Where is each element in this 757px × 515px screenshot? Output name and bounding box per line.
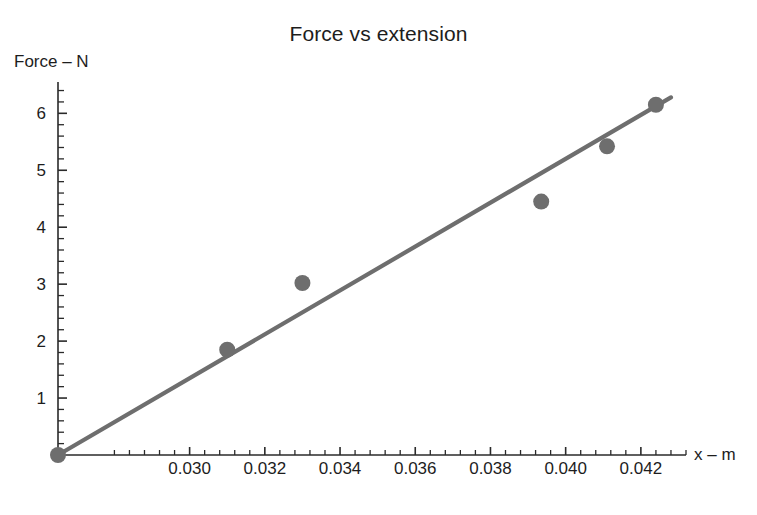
y-tick-label: 4 xyxy=(37,218,46,237)
y-tick-label: 6 xyxy=(37,104,46,123)
data-point xyxy=(648,97,664,113)
y-tick-label: 2 xyxy=(37,332,46,351)
x-tick-group xyxy=(114,447,686,455)
x-tick-label-group: 0.0300.0320.0340.0360.0380.0400.042 xyxy=(168,459,662,478)
data-point xyxy=(219,342,235,358)
x-tick-label: 0.038 xyxy=(469,459,512,478)
x-tick-label: 0.032 xyxy=(244,459,287,478)
data-point xyxy=(50,447,66,463)
y-tick-label-group: 123456 xyxy=(37,104,46,408)
y-tick-group xyxy=(58,91,67,455)
data-point xyxy=(533,194,549,210)
y-tick-label: 3 xyxy=(37,275,46,294)
best-fit-line xyxy=(58,97,671,455)
y-tick-label: 1 xyxy=(37,389,46,408)
data-point xyxy=(599,138,615,154)
x-tick-label: 0.042 xyxy=(620,459,663,478)
chart-canvas: Force vs extension Force – N x – m 0.030… xyxy=(0,0,757,515)
data-point xyxy=(294,275,310,291)
x-tick-label: 0.036 xyxy=(394,459,437,478)
x-tick-label: 0.040 xyxy=(544,459,587,478)
x-tick-label: 0.030 xyxy=(168,459,211,478)
y-tick-label: 5 xyxy=(37,161,46,180)
plot-area: 0.0300.0320.0340.0360.0380.0400.042 1234… xyxy=(0,0,757,515)
best-fit-line-group xyxy=(58,97,671,455)
x-tick-label: 0.034 xyxy=(319,459,362,478)
